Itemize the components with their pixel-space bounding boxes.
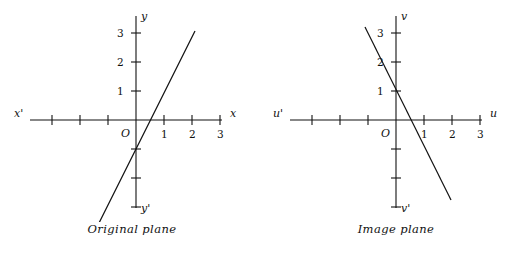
axis-label-y-positive: y [140,10,148,23]
caption-image-plane: Image plane [264,222,528,236]
axis-label-x-positive: x [230,107,237,120]
axis-label-y-negative: y' [140,202,150,215]
axis-label-u-negative: u' [273,107,283,120]
data-line-image [365,27,451,200]
origin-label-original: O [121,127,130,140]
panel-image-plane: u' u v v' O 1 2 3 1 2 3 Image plane [264,0,528,258]
origin-label-image: O [381,127,390,140]
v-tick-label-2: 2 [377,56,384,68]
u-tick-label-3: 3 [477,128,484,140]
y-tick-label-3: 3 [117,27,124,39]
u-tick-label-2: 2 [449,128,456,140]
figure-canvas: x' x y y' O 1 2 3 1 2 3 Original plane [0,0,528,258]
panel-original-plane: x' x y y' O 1 2 3 1 2 3 Original plane [0,0,264,258]
x-tick-label-2: 2 [189,128,196,140]
v-tick-label-3: 3 [377,27,384,39]
axis-label-x-negative: x' [14,107,23,120]
data-line-original [97,31,195,222]
axis-label-v-negative: v' [401,202,410,215]
x-tick-label-1: 1 [161,128,168,140]
axis-label-v-positive: v [401,10,408,23]
plot-image-plane: u' u v v' O 1 2 3 1 2 3 [264,0,528,222]
x-tick-label-3: 3 [217,128,224,140]
plot-original-plane: x' x y y' O 1 2 3 1 2 3 [0,0,264,222]
v-tick-label-1: 1 [377,85,384,97]
y-tick-label-1: 1 [117,85,124,97]
y-tick-label-2: 2 [117,56,124,68]
caption-original-plane: Original plane [0,222,264,236]
axis-label-u-positive: u [490,107,497,120]
u-tick-label-1: 1 [421,128,428,140]
